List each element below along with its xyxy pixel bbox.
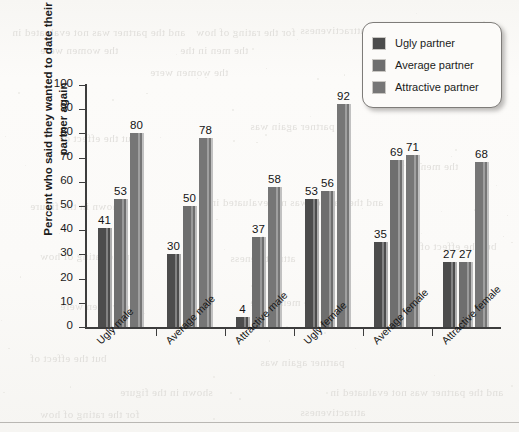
- bar[interactable]: 53: [305, 199, 319, 327]
- bar-chart: Percent who said they wanted to date the…: [0, 0, 519, 432]
- legend-item[interactable]: Average partner: [372, 54, 491, 76]
- bar-fill: [443, 262, 457, 327]
- y-axis-tick-mark: [79, 182, 85, 183]
- bar-value-label: 27: [443, 248, 456, 260]
- bar[interactable]: 69: [390, 160, 404, 327]
- bar-fill: [305, 199, 319, 327]
- y-axis-tick-label: 90: [45, 101, 73, 113]
- x-axis-tick-mark: [294, 329, 295, 336]
- bar[interactable]: 41: [98, 228, 112, 327]
- legend-swatch-ugly: [372, 37, 386, 50]
- y-axis-tick-label: 50: [45, 198, 73, 210]
- legend-item[interactable]: Ugly partner: [372, 32, 491, 54]
- bar-value-label: 92: [337, 90, 350, 102]
- y-axis-tick-label: 100: [45, 77, 73, 89]
- legend-swatch-average: [372, 59, 386, 72]
- bar-value-label: 53: [305, 185, 318, 197]
- bar-group: 535692: [294, 85, 363, 327]
- y-axis-tick-mark: [79, 230, 85, 231]
- y-axis-tick-label: 30: [45, 246, 73, 258]
- bar-group: 415380: [87, 85, 156, 327]
- bar-value-label: 37: [252, 223, 265, 235]
- bar[interactable]: 30: [167, 254, 181, 327]
- y-axis-tick-label: 70: [45, 150, 73, 162]
- y-axis-tick-label: 80: [45, 125, 73, 137]
- bar-fill: [167, 254, 181, 327]
- bar-value-label: 35: [374, 228, 387, 240]
- bar-fill: [390, 160, 404, 327]
- bar-fill: [337, 104, 351, 327]
- y-axis-tick-label: 40: [45, 222, 73, 234]
- y-axis-tick-mark: [79, 254, 85, 255]
- bar[interactable]: 27: [443, 262, 457, 327]
- x-axis-line: [85, 327, 501, 329]
- y-axis-tick-label: 10: [45, 295, 73, 307]
- y-axis-tick-label: 20: [45, 271, 73, 283]
- y-axis-tick-mark: [79, 327, 85, 328]
- bar-value-label: 58: [268, 173, 281, 185]
- y-axis-tick-mark: [79, 109, 85, 110]
- y-axis-tick-mark: [79, 303, 85, 304]
- bar-value-label: 80: [130, 119, 143, 131]
- legend-item-label: Ugly partner: [395, 37, 455, 49]
- bar[interactable]: 35: [374, 242, 388, 327]
- y-axis-tick-mark: [79, 279, 85, 280]
- bar-value-label: 50: [183, 192, 196, 204]
- y-axis-tick-mark: [79, 206, 85, 207]
- y-axis-tick-mark: [79, 158, 85, 159]
- y-axis-tick-mark: [79, 133, 85, 134]
- bar-value-label: 30: [167, 240, 180, 252]
- bar-fill: [98, 228, 112, 327]
- bar-fill: [374, 242, 388, 327]
- bar-value-label: 78: [199, 124, 212, 136]
- legend-item-label: Attractive partner: [395, 81, 479, 93]
- bar-value-label: 71: [406, 141, 419, 153]
- y-axis-tick-label: 0: [45, 319, 73, 331]
- bar-group: 305078: [156, 85, 225, 327]
- bar-value-label: 27: [459, 248, 472, 260]
- plot-area: 41538030507843758535692356971272768: [87, 85, 501, 327]
- legend-item-label: Average partner: [395, 59, 474, 71]
- bar-value-label: 69: [390, 146, 403, 158]
- bar[interactable]: 92: [337, 104, 351, 327]
- x-axis-tick-mark: [363, 329, 364, 336]
- bar-value-label: 4: [239, 303, 245, 315]
- legend-item[interactable]: Attractive partner: [372, 76, 491, 98]
- bar[interactable]: 80: [130, 133, 144, 327]
- bar-fill: [130, 133, 144, 327]
- y-axis-tick-label: 60: [45, 174, 73, 186]
- x-axis-tick-mark: [156, 329, 157, 336]
- x-axis-tick-mark: [432, 329, 433, 336]
- bar-value-label: 68: [475, 148, 488, 160]
- bar-value-label: 41: [98, 214, 111, 226]
- x-axis-tick-mark: [225, 329, 226, 336]
- y-axis-tick-mark: [79, 85, 85, 86]
- bar-value-label: 56: [321, 177, 334, 189]
- bar-value-label: 53: [114, 185, 127, 197]
- chart-legend: Ugly partnerAverage partnerAttractive pa…: [362, 22, 502, 108]
- legend-swatch-attractive: [372, 81, 386, 94]
